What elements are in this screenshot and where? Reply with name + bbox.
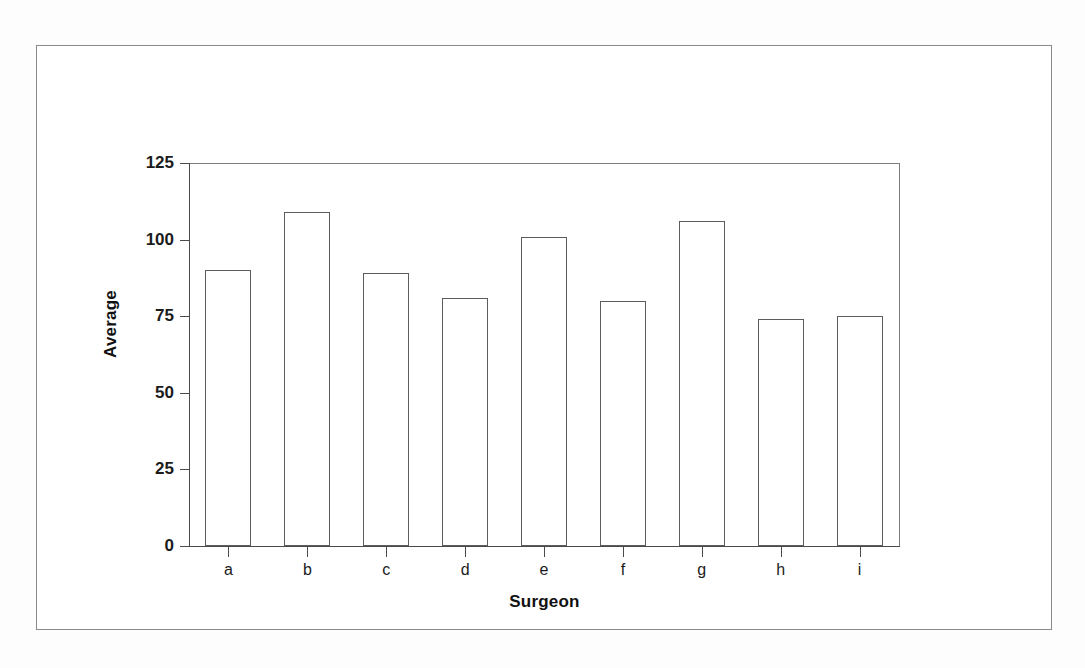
- x-tick-mark: [386, 547, 387, 557]
- chart-frame: 0255075100125 abcdefghi Average Surgeon: [36, 45, 1052, 630]
- page-canvas: 0255075100125 abcdefghi Average Surgeon: [0, 0, 1085, 668]
- x-tick-mark: [702, 547, 703, 557]
- x-tick-label-a: a: [208, 562, 248, 578]
- y-tick-label-wrap: 25: [119, 469, 174, 470]
- y-tick-label: 75: [128, 307, 174, 324]
- x-tick-mark: [860, 547, 861, 557]
- bar-c: [363, 273, 409, 546]
- x-tick-label-f: f: [603, 562, 643, 578]
- x-tick-label-g: g: [682, 562, 722, 578]
- bar-h: [758, 319, 804, 546]
- x-tick-mark: [228, 547, 229, 557]
- bar-g: [679, 221, 725, 546]
- x-tick-mark: [781, 547, 782, 557]
- y-axis-line: [189, 163, 190, 547]
- y-tick-mark: [180, 393, 189, 394]
- x-tick-mark: [307, 547, 308, 557]
- x-tick-mark: [465, 547, 466, 557]
- bar-f: [600, 301, 646, 546]
- y-tick-label: 125: [128, 154, 174, 171]
- x-tick-label-c: c: [366, 562, 406, 578]
- y-tick-label-wrap: 125: [119, 163, 174, 164]
- bar-i: [837, 316, 883, 546]
- x-tick-label-h: h: [761, 562, 801, 578]
- bar-b: [284, 212, 330, 546]
- y-tick-label-wrap: 0: [119, 546, 174, 547]
- x-tick-label-i: i: [840, 562, 880, 578]
- bar-chart: 0255075100125 abcdefghi Average Surgeon: [37, 46, 1053, 631]
- y-tick-mark: [180, 240, 189, 241]
- x-tick-label-e: e: [524, 562, 564, 578]
- y-tick-mark: [180, 469, 189, 470]
- y-tick-label: 100: [128, 231, 174, 248]
- x-tick-mark: [544, 547, 545, 557]
- bar-a: [205, 270, 251, 546]
- x-axis-title: Surgeon: [189, 592, 900, 612]
- y-tick-mark: [180, 163, 189, 164]
- y-tick-label-wrap: 100: [119, 240, 174, 241]
- x-tick-label-d: d: [445, 562, 485, 578]
- y-tick-label-wrap: 50: [119, 393, 174, 394]
- x-tick-mark: [623, 547, 624, 557]
- y-tick-label: 0: [128, 537, 174, 554]
- y-tick-mark: [180, 316, 189, 317]
- plot-right-border: [899, 163, 900, 547]
- y-tick-label: 50: [128, 384, 174, 401]
- y-tick-label: 25: [128, 460, 174, 477]
- plot-top-border: [189, 163, 900, 164]
- x-tick-label-b: b: [287, 562, 327, 578]
- y-tick-label-wrap: 75: [119, 316, 174, 317]
- bar-e: [521, 237, 567, 546]
- y-tick-mark: [180, 546, 189, 547]
- y-axis-title: Average: [101, 244, 121, 404]
- bar-d: [442, 298, 488, 546]
